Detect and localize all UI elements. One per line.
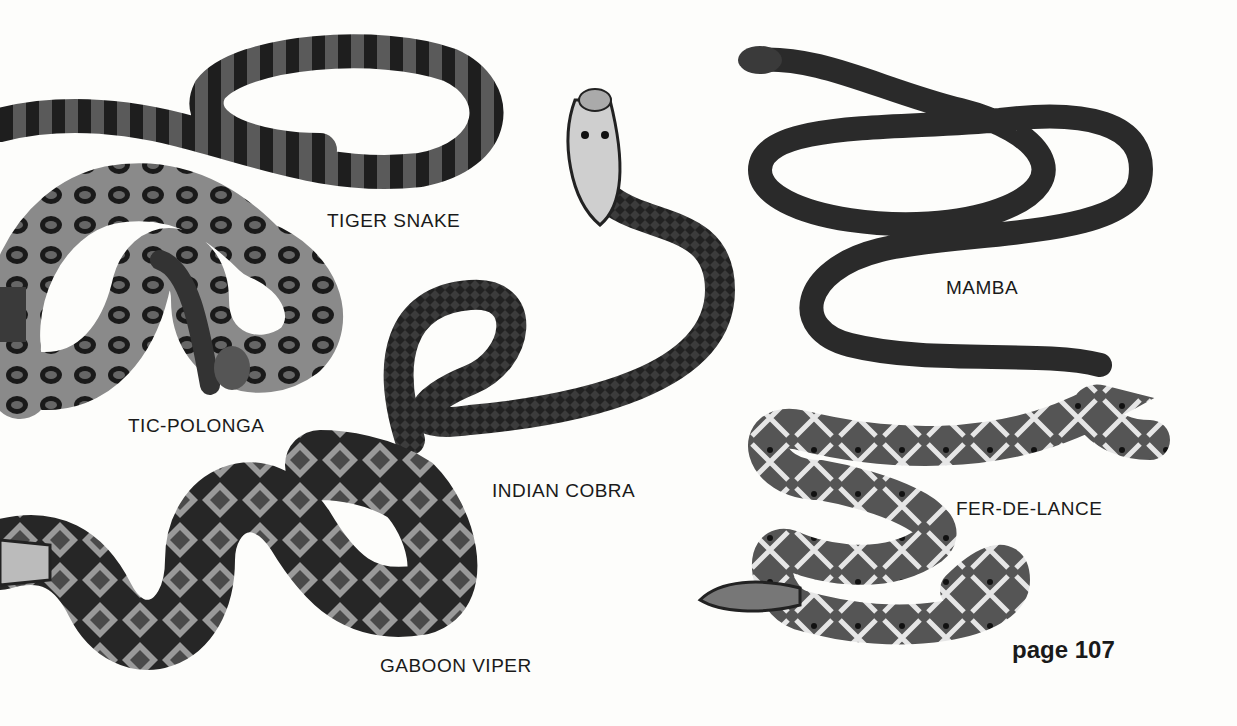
label-fer-de-lance: FER-DE-LANCE xyxy=(956,498,1102,520)
indian-cobra-illustration xyxy=(399,89,720,440)
tic-polonga-illustration xyxy=(11,192,314,390)
label-gaboon-viper: GABOON VIPER xyxy=(380,655,532,677)
mamba-illustration xyxy=(738,46,1141,365)
label-mamba: MAMBA xyxy=(946,277,1018,299)
snake-illustrations xyxy=(0,0,1237,726)
page-number: page 107 xyxy=(1012,636,1115,664)
label-tiger-snake: TIGER SNAKE xyxy=(327,210,460,232)
tiger-snake-illustration xyxy=(0,51,486,172)
label-indian-cobra: INDIAN COBRA xyxy=(492,480,635,502)
page-edge-tab xyxy=(0,287,26,342)
label-tic-polonga: TIC-POLONGA xyxy=(128,415,264,437)
gaboon-viper-illustration xyxy=(0,465,442,635)
